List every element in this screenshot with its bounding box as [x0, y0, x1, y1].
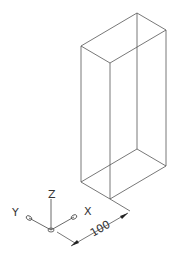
dimension-100: 100 — [57, 199, 130, 246]
box-top-face — [81, 13, 166, 63]
y-axis-label: Y — [11, 206, 19, 219]
extension-line-left — [57, 232, 75, 243]
ucs-icon: Z Y X — [11, 188, 92, 232]
wireframe-box — [81, 13, 166, 199]
drawing-canvas: 100 Z Y X — [0, 0, 177, 258]
x-axis — [51, 217, 74, 230]
extension-line-right — [110, 199, 130, 211]
x-axis-label: X — [84, 205, 92, 218]
y-axis — [29, 218, 51, 230]
box-bottom-face — [81, 149, 166, 199]
dimension-text: 100 — [88, 218, 113, 240]
arrow-right-icon — [120, 213, 128, 219]
z-axis-label: Z — [48, 188, 56, 201]
